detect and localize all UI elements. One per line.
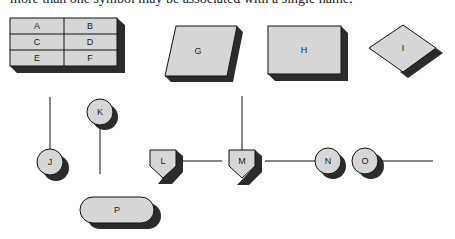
label-p: P [114, 205, 120, 215]
label-g: G [194, 46, 201, 56]
circle-symbol-k: K [87, 99, 118, 130]
rectangle-symbol-h: H [268, 26, 348, 81]
cell-e: E [34, 53, 40, 63]
circle-symbol-o: O [352, 148, 384, 179]
label-i: I [402, 43, 405, 53]
cell-d: D [87, 37, 94, 47]
cell-b: B [87, 21, 93, 31]
diamond-symbol-i: I [369, 25, 443, 78]
label-m: M [238, 156, 246, 166]
label-j: J [48, 157, 53, 167]
cell-c: C [34, 37, 41, 47]
table-symbol: A B C D E F [10, 18, 125, 73]
terminator-symbol-p: P [80, 197, 161, 229]
circle-symbol-j: J [37, 149, 69, 181]
parallelogram-symbol-g: G [165, 26, 243, 82]
label-o: O [361, 156, 368, 166]
label-n: N [325, 156, 332, 166]
circle-symbol-n: N [315, 148, 346, 179]
cell-f: F [87, 53, 93, 63]
symbol-diagram: A B C D E F G H I K [0, 0, 455, 239]
cell-a: A [34, 21, 40, 31]
pentagon-symbol-l: L [150, 150, 183, 184]
label-h: H [301, 45, 308, 55]
label-k: K [97, 107, 103, 117]
pentagon-symbol-m: M [229, 150, 262, 185]
label-l: L [160, 156, 165, 166]
